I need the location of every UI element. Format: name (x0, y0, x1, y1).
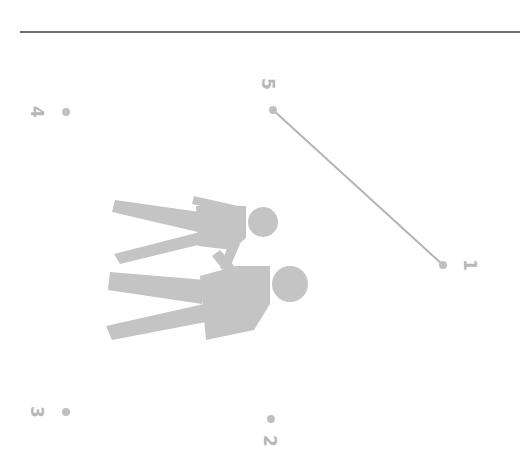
point-4: 4 (27, 106, 70, 118)
label-1: 1 (460, 259, 480, 271)
label-2: 2 (260, 435, 280, 447)
dot-1-icon (439, 261, 447, 269)
connector-line-5-1 (273, 110, 443, 265)
label-3: 3 (27, 406, 47, 418)
point-2: 2 (260, 415, 280, 447)
label-5: 5 (258, 78, 278, 90)
label-4: 4 (27, 106, 47, 118)
dot-4-icon (62, 108, 70, 116)
point-5: 5 (258, 78, 278, 114)
child-figure-icon (112, 196, 278, 272)
people-diagram: 1 2 3 4 5 (0, 0, 520, 476)
point-1: 1 (439, 259, 480, 271)
dot-2-icon (267, 415, 275, 423)
dot-5-icon (269, 106, 277, 114)
point-3: 3 (27, 406, 70, 418)
adult-figure-icon (106, 250, 308, 340)
dot-3-icon (62, 408, 70, 416)
